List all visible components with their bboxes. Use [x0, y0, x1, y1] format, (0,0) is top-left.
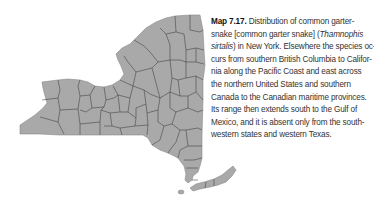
caption-line-1: Map 7.17. Distribution of common garter-: [211, 16, 371, 29]
caption-line-5: nia along the Pacific Coast and east acr…: [211, 66, 371, 79]
caption-line-8: Its range then extends south to the Gulf…: [211, 104, 371, 117]
caption-line-3: sirtalis) in New York. Elsewhere the spe…: [211, 41, 371, 54]
map-caption: Map 7.17. Distribution of common garter-…: [211, 16, 371, 142]
species-name: Thamnophis: [320, 30, 364, 39]
species-name-cont: sirtalis: [211, 42, 233, 51]
caption-line-2: snake [common garter snake] (Thamnophis: [211, 29, 371, 42]
staten-island-shape: [178, 190, 184, 194]
caption-line-4: curs from southern British Columbia to C…: [211, 54, 371, 67]
caption-line-9: Mexico, and it is absent only from the s…: [211, 117, 371, 130]
new-york-state-shape: [20, 15, 205, 183]
map-label: Map 7.17.: [211, 17, 247, 26]
caption-line-6: the northern United States and southern: [211, 79, 371, 92]
caption-line-10: western states and western Texas.: [211, 129, 371, 142]
caption-line-7: Canada to the Canadian maritime province…: [211, 92, 371, 105]
